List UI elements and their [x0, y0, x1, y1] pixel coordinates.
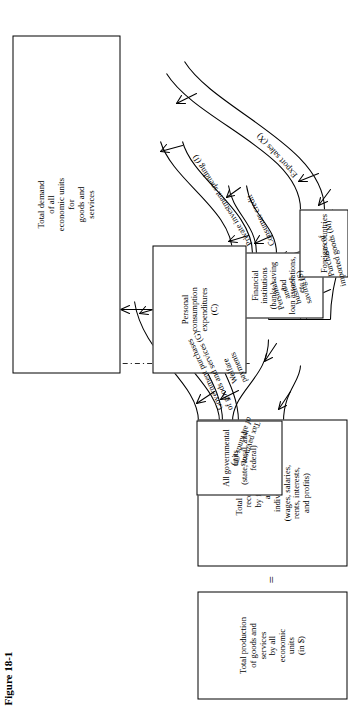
arrow-credit-2: [226, 187, 240, 197]
circular-flow-diagram: Total productionof goods andservicesby a…: [0, 0, 348, 721]
figure-caption: Figure 18-1: [1, 651, 13, 705]
arrow-imports-2: [318, 189, 330, 205]
tax-band-edge-bottom: [283, 365, 300, 421]
box-total-demand-label: Total demandof alleconomic unitsforgoods…: [35, 174, 96, 234]
equals-sign: =: [264, 576, 277, 583]
box-total-production: Total productionof goods andservicesby a…: [197, 591, 347, 699]
box-total-demand: Total demandof alleconomic unitsforgoods…: [12, 35, 120, 373]
arrow-investment-2: [160, 144, 182, 152]
box-personal-consumption-label: Personalconsumptionexpenditures(C): [179, 284, 220, 334]
arrow-tax-2: [264, 343, 276, 361]
figure-caption-text: Figure 18-1: [1, 651, 13, 705]
figure-viewport: Total productionof goods andservicesby a…: [0, 0, 348, 721]
export-edge-bottom: [184, 61, 324, 209]
box-total-production-label: Total productionof goods andservicesby a…: [237, 614, 306, 677]
arrow-tax-1: [278, 391, 290, 409]
